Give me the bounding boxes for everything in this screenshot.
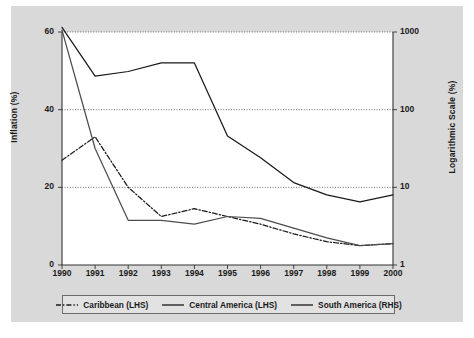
y-axis-right-title: Logarithmic Scale (%) <box>447 79 457 175</box>
x-tick-2000: 2000 <box>376 268 410 278</box>
y-axis-left-title: Inflation (%) <box>9 69 19 165</box>
x-tick-1996: 1996 <box>244 268 278 278</box>
y-left-tick-40: 40 <box>28 104 54 114</box>
x-tick-1999: 1999 <box>343 268 377 278</box>
x-tick-1992: 1992 <box>111 268 145 278</box>
x-tick-1991: 1991 <box>78 268 112 278</box>
legend-item: Caribbean (LHS) <box>55 300 148 310</box>
y-left-tick-60: 60 <box>28 26 54 36</box>
x-tick-1995: 1995 <box>211 268 245 278</box>
legend-label: Caribbean (LHS) <box>83 300 148 310</box>
legend-item: Central America (LHS) <box>161 300 277 310</box>
legend-label: Central America (LHS) <box>189 300 277 310</box>
y-right-tick-100: 100 <box>400 104 430 114</box>
legend-item: South America (RHS) <box>290 300 402 310</box>
x-tick-1997: 1997 <box>277 268 311 278</box>
legend-label: South America (RHS) <box>318 300 402 310</box>
x-tick-1994: 1994 <box>177 268 211 278</box>
x-tick-1990: 1990 <box>45 268 79 278</box>
y-left-tick-20: 20 <box>28 181 54 191</box>
chart-labels: Inflation (%) Logarithmic Scale (%) 0204… <box>0 0 474 338</box>
x-tick-1998: 1998 <box>310 268 344 278</box>
legend-swatch-icon <box>290 301 314 309</box>
legend-swatch-icon <box>55 301 79 309</box>
y-right-tick-10: 10 <box>400 181 430 191</box>
x-tick-1993: 1993 <box>144 268 178 278</box>
chart-legend: Caribbean (LHS)Central America (LHS)Sout… <box>62 295 395 314</box>
y-right-tick-1000: 1000 <box>400 26 430 36</box>
legend-swatch-icon <box>161 301 185 309</box>
